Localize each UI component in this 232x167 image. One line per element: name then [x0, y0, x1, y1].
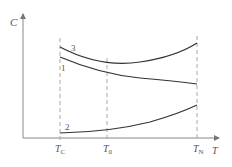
tick-label-tn: TN	[193, 143, 204, 156]
tick-label-tc: TC	[55, 143, 66, 156]
cost-temperature-diagram: C T 3 1 2 TC T0 TN	[0, 0, 232, 167]
tick-label-t0: T0	[103, 143, 113, 156]
curve-1	[60, 57, 197, 84]
x-axis-label: T	[212, 145, 219, 156]
curve-2	[60, 105, 197, 133]
curve-3	[60, 43, 197, 63]
curve-1-label: 1	[61, 63, 66, 73]
y-axis-label: C	[10, 16, 18, 28]
curve-3-label: 3	[71, 43, 76, 53]
curve-2-label: 2	[65, 122, 70, 132]
